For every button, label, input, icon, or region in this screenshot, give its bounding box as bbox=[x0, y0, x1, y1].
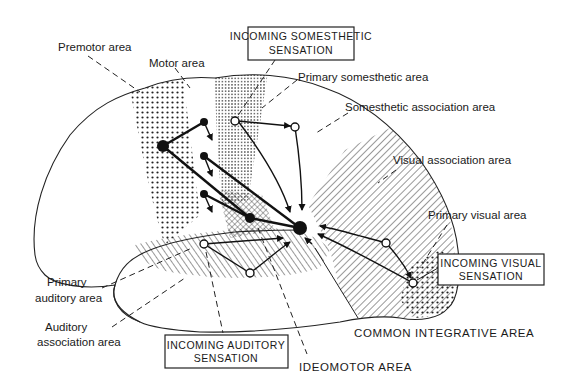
label-visual-association-area: Visual association area bbox=[393, 154, 512, 166]
label-auditory-association-line1: Auditory bbox=[45, 321, 87, 333]
auditory-association-node bbox=[246, 269, 254, 277]
common-integrative-node bbox=[293, 221, 307, 235]
temporal-lobe-edge bbox=[114, 285, 140, 322]
premotor-node bbox=[157, 140, 169, 152]
visual-association-node bbox=[382, 239, 390, 247]
label-primary-visual-area: Primary visual area bbox=[428, 209, 527, 221]
box-somesthetic-line2: SENSATION bbox=[269, 44, 333, 56]
box-visual-line2: SENSATION bbox=[459, 270, 523, 282]
cortex-diagram: Premotor area Motor area Primary somesth… bbox=[0, 0, 575, 392]
label-common-integrative-area: COMMON INTEGRATIVE AREA bbox=[354, 327, 534, 339]
box-incoming-auditory: INCOMING AUDITORY SENSATION bbox=[165, 335, 288, 368]
label-motor-area: Motor area bbox=[149, 57, 205, 69]
label-auditory-association-line2: association area bbox=[37, 336, 121, 348]
label-primary-somesthetic-area: Primary somesthetic area bbox=[298, 71, 429, 83]
box-somesthetic-line1: INCOMING SOMESTHETIC bbox=[230, 30, 372, 42]
auditory-primary-node bbox=[200, 240, 208, 248]
somesthetic-association-node bbox=[291, 123, 299, 131]
box-visual-line1: INCOMING VISUAL bbox=[440, 257, 541, 269]
box-auditory-line2: SENSATION bbox=[194, 352, 258, 364]
label-somesthetic-association-area: Somesthetic association area bbox=[345, 101, 496, 113]
label-primary-auditory-line1: Primary bbox=[47, 276, 87, 288]
ideomotor-node bbox=[245, 213, 255, 223]
box-incoming-somesthetic: INCOMING SOMESTHETIC SENSATION bbox=[230, 27, 372, 60]
motor-node-1 bbox=[200, 118, 208, 126]
label-premotor-area: Premotor area bbox=[58, 41, 132, 53]
visual-primary-node bbox=[409, 279, 417, 287]
premotor-region bbox=[128, 78, 200, 245]
motor-node-3 bbox=[200, 190, 208, 198]
motor-node-2 bbox=[200, 152, 208, 160]
box-auditory-line1: INCOMING AUDITORY bbox=[167, 339, 285, 351]
box-incoming-visual: INCOMING VISUAL SENSATION bbox=[438, 254, 544, 285]
somesthetic-primary-node bbox=[231, 117, 239, 125]
label-ideomotor-area: IDEOMOTOR AREA bbox=[299, 361, 412, 373]
label-primary-auditory-line2: auditory area bbox=[35, 292, 103, 304]
